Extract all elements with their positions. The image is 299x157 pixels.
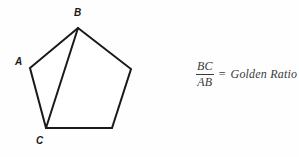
vertex-label-a: A [15, 57, 22, 67]
golden-ratio-equation: BC AB = Golden Ratio [196, 60, 297, 88]
vertex-label-b: B [74, 8, 81, 18]
figure-page: A B C BC AB = Golden Ratio [0, 0, 299, 157]
fraction-numerator: BC [196, 60, 214, 73]
golden-ratio-label: Golden Ratio [231, 67, 298, 82]
fraction-denominator: AB [196, 76, 213, 89]
fraction-bc-over-ab: BC AB [196, 60, 214, 88]
equals-sign: = [219, 67, 226, 82]
vertex-label-c: C [36, 136, 43, 146]
pentagon-outline [30, 28, 131, 128]
